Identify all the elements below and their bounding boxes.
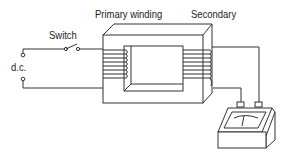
circuit-drawing bbox=[0, 0, 289, 161]
iron-core bbox=[103, 24, 212, 103]
secondary-wire-bottom bbox=[213, 88, 241, 102]
switch-blade bbox=[66, 44, 77, 49]
secondary-wire-top bbox=[212, 47, 259, 102]
core-top-bevel bbox=[103, 24, 212, 35]
switch-symbol bbox=[64, 44, 79, 51]
meter-base bbox=[218, 132, 266, 148]
core-inner-bevel bbox=[124, 84, 131, 91]
secondary-label: Secondary bbox=[191, 9, 236, 20]
terminal-positive bbox=[21, 53, 25, 57]
top-wire-left bbox=[23, 49, 66, 55]
secondary-circuit bbox=[212, 47, 259, 102]
transformer-diagram: Switch Primary winding Secondary d.c. bbox=[0, 0, 289, 161]
secondary-winding bbox=[183, 50, 212, 86]
primary-winding-label: Primary winding bbox=[95, 9, 162, 20]
primary-circuit bbox=[21, 49, 103, 88]
core-outer-face bbox=[103, 35, 203, 103]
galvanometer bbox=[218, 102, 275, 148]
core-right-bevel bbox=[203, 24, 212, 103]
terminal-negative bbox=[21, 77, 25, 81]
bottom-wire bbox=[23, 79, 103, 88]
dc-supply-label: d.c. bbox=[11, 62, 26, 73]
switch-label: Switch bbox=[49, 30, 77, 41]
